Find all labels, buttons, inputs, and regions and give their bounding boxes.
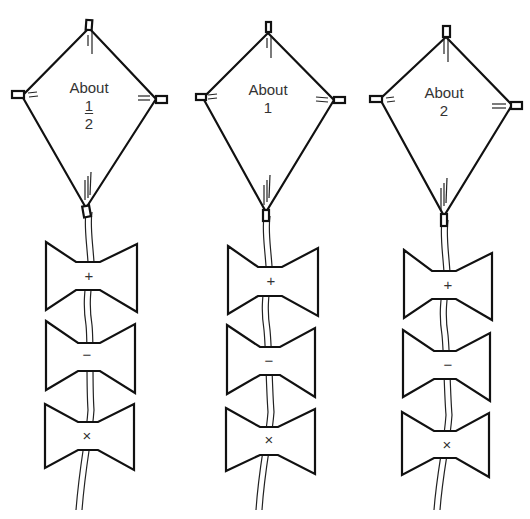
- kite-2-label-value: 1: [264, 99, 272, 116]
- kite-1-label-about: About: [69, 79, 108, 96]
- kite-1-bow-times: ×: [72, 428, 102, 444]
- kite-3-label-value: 2: [440, 102, 448, 119]
- kite-1-label: About 1 2: [59, 79, 119, 133]
- kite-2-bow-minus: −: [254, 353, 284, 369]
- kite-3-label-about: About: [424, 84, 463, 101]
- kite-2-bow-times: ×: [254, 432, 284, 448]
- kite-3-label: About 2: [414, 84, 474, 120]
- kite-1-bow-plus: +: [74, 268, 104, 284]
- kite-2-label-about: About: [248, 81, 287, 98]
- kite-1-fraction-numerator: 1: [59, 97, 119, 115]
- kite-2-bow-plus: +: [256, 273, 286, 289]
- kite-2-label: About 1: [238, 81, 298, 117]
- kite-3-bow-plus: +: [433, 277, 463, 293]
- kite-3-bow-times: ×: [432, 437, 462, 453]
- kite-1-bow-minus: −: [72, 347, 102, 363]
- kite-1-fraction-denominator: 2: [59, 115, 119, 133]
- kite-3-bow-minus: −: [433, 357, 463, 373]
